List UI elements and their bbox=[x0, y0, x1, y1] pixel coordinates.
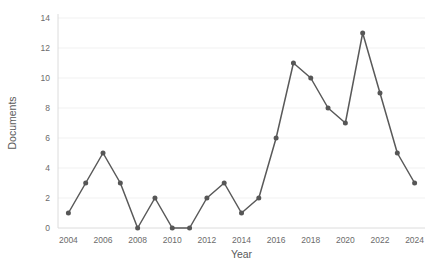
y-tick-label: 12 bbox=[41, 43, 51, 53]
data-point-marker bbox=[412, 181, 417, 186]
x-tick-label: 2012 bbox=[197, 235, 216, 245]
data-point-marker bbox=[395, 151, 400, 156]
x-tick-label: 2006 bbox=[94, 235, 113, 245]
data-point-marker bbox=[135, 226, 140, 231]
data-point-marker bbox=[256, 196, 261, 201]
data-point-marker bbox=[377, 91, 382, 96]
y-tick-label: 8 bbox=[45, 103, 50, 113]
data-point-marker bbox=[343, 121, 348, 126]
data-point-marker bbox=[326, 106, 331, 111]
y-tick-label: 4 bbox=[45, 163, 50, 173]
x-tick-label: 2020 bbox=[336, 235, 355, 245]
data-point-marker bbox=[170, 226, 175, 231]
data-point-marker bbox=[187, 226, 192, 231]
y-tick-label: 0 bbox=[45, 223, 50, 233]
data-point-marker bbox=[152, 196, 157, 201]
x-tick-label: 2010 bbox=[163, 235, 182, 245]
data-point-marker bbox=[274, 136, 279, 141]
y-tick-label: 14 bbox=[41, 13, 51, 23]
x-tick-label: 2024 bbox=[405, 235, 424, 245]
data-point-marker bbox=[291, 61, 296, 66]
data-point-marker bbox=[118, 181, 123, 186]
data-point-marker bbox=[204, 196, 209, 201]
data-point-marker bbox=[83, 181, 88, 186]
x-tick-label: 2018 bbox=[301, 235, 320, 245]
data-point-marker bbox=[101, 151, 106, 156]
x-tick-label: 2016 bbox=[267, 235, 286, 245]
data-point-marker bbox=[222, 181, 227, 186]
y-tick-label: 10 bbox=[41, 73, 51, 83]
x-tick-label: 2014 bbox=[232, 235, 251, 245]
data-point-marker bbox=[239, 211, 244, 216]
x-tick-label: 2008 bbox=[128, 235, 147, 245]
data-point-marker bbox=[360, 31, 365, 36]
y-axis-title: Documents bbox=[6, 96, 18, 149]
y-tick-label: 6 bbox=[45, 133, 50, 143]
data-point-marker bbox=[308, 76, 313, 81]
x-tick-label: 2022 bbox=[371, 235, 390, 245]
line-chart: 02468101214 2004200620082010201220142016… bbox=[0, 0, 432, 271]
y-tick-label: 2 bbox=[45, 193, 50, 203]
chart-background bbox=[0, 0, 432, 271]
x-axis-title: Year bbox=[231, 248, 253, 260]
data-point-marker bbox=[66, 211, 71, 216]
x-tick-label: 2004 bbox=[59, 235, 78, 245]
chart-canvas: 02468101214 2004200620082010201220142016… bbox=[0, 0, 432, 271]
